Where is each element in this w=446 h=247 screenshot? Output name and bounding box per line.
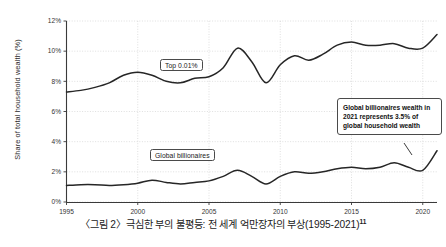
y-tick-label: 12% (48, 17, 61, 24)
chart-plot-area: Share of total household wealth (%) 0%2%… (0, 0, 446, 214)
y-tick-label: 6% (51, 108, 61, 115)
x-tick-label: 2015 (344, 208, 359, 215)
y-tick-label: 0% (51, 198, 61, 205)
caption-footnote-marker: 11 (359, 218, 366, 225)
x-tick-label: 1995 (59, 208, 74, 215)
annotation-callout: Global billionaires wealth in 2021 repre… (337, 98, 442, 135)
caption-text: 〈그림 2〉극심한 부의 불평등: 전 세계 억만장자의 부상(1995-202… (80, 219, 360, 230)
series-label-global-billionaires: Global billionaires (150, 149, 215, 161)
y-tick-label: 8% (51, 78, 61, 85)
x-tick-label: 2020 (415, 208, 430, 215)
figure-container: Share of total household wealth (%) 0%2%… (0, 0, 446, 247)
series-line-top-0-01 (67, 35, 438, 92)
x-tick-label: 2000 (130, 208, 145, 215)
figure-caption: 〈그림 2〉극심한 부의 불평등: 전 세계 억만장자의 부상(1995-202… (0, 216, 446, 231)
series-label-top-share: Top 0.01% (160, 59, 203, 71)
annotation-leader-line (404, 143, 412, 155)
x-tick-label: 2010 (273, 208, 288, 215)
annotation-leader-segment (404, 143, 412, 155)
y-tick-label: 10% (48, 47, 61, 54)
y-tick-label: 4% (51, 138, 61, 145)
y-tick-label: 2% (51, 168, 61, 175)
x-tick-label: 2005 (202, 208, 217, 215)
series-line-global-billionaires (67, 151, 438, 186)
